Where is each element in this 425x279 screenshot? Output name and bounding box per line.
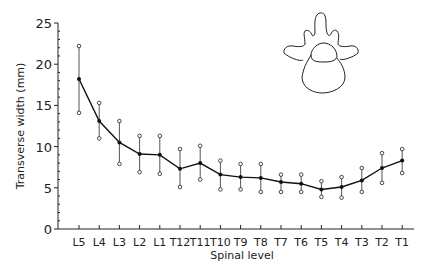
y-tick-label: 5	[44, 181, 52, 196]
upper-marker	[279, 173, 283, 177]
lower-marker	[380, 181, 384, 185]
y-tick-label: 0	[44, 222, 52, 237]
upper-marker	[340, 175, 344, 179]
mean-marker	[299, 182, 303, 186]
mean-marker	[360, 178, 364, 182]
x-tick-label: T4	[334, 236, 349, 249]
x-tick-label: T11	[189, 236, 211, 249]
x-tick-label: T8	[253, 236, 268, 249]
chart: 0510152025L5L4L3L2L1T12T11T10T9T8T7T6T5T…	[0, 0, 425, 279]
lower-marker	[138, 170, 142, 174]
x-tick-label: T6	[293, 236, 308, 249]
upper-marker	[198, 144, 202, 148]
x-tick-label: T3	[354, 236, 369, 249]
lower-marker	[239, 188, 243, 192]
upper-marker	[320, 179, 324, 183]
x-tick-label: L5	[72, 236, 85, 249]
mean-marker	[239, 175, 243, 179]
upper-marker	[219, 159, 223, 163]
lower-marker	[158, 172, 162, 176]
upper-marker	[380, 151, 384, 155]
lower-marker	[299, 190, 303, 194]
upper-marker	[158, 134, 162, 138]
mean-marker	[117, 140, 121, 144]
upper-marker	[400, 147, 404, 151]
mean-marker	[319, 187, 323, 191]
upper-marker	[299, 173, 303, 177]
y-tick-label: 20	[35, 57, 52, 72]
x-tick-label: T1	[394, 236, 409, 249]
upper-marker	[259, 162, 263, 166]
lower-marker	[340, 196, 344, 200]
lower-marker	[198, 178, 202, 182]
x-tick-label: T2	[374, 236, 389, 249]
lower-marker	[320, 195, 324, 199]
lower-marker	[97, 137, 101, 141]
x-tick-label: T9	[233, 236, 248, 249]
lower-marker	[77, 111, 81, 115]
mean-marker	[158, 153, 162, 157]
y-axis-label: Transverse width (mm)	[14, 63, 27, 191]
x-axis-label: Spinal level	[210, 249, 273, 262]
y-tick-label: 15	[35, 98, 52, 113]
upper-marker	[239, 162, 243, 166]
mean-marker	[380, 166, 384, 170]
upper-marker	[360, 166, 364, 170]
mean-marker	[77, 77, 81, 81]
upper-marker	[77, 44, 81, 48]
upper-marker	[97, 101, 101, 105]
y-tick-label: 10	[35, 140, 52, 155]
upper-marker	[118, 119, 122, 123]
mean-marker	[340, 185, 344, 189]
lower-marker	[259, 190, 263, 194]
vertebra-illustration	[284, 13, 358, 93]
lower-marker	[219, 188, 223, 192]
x-tick-label: L2	[133, 236, 146, 249]
mean-marker	[218, 173, 222, 177]
axes: 0510152025L5L4L3L2L1T12T11T10T9T8T7T6T5T…	[35, 16, 414, 249]
x-tick-label: T5	[314, 236, 329, 249]
mean-marker	[97, 119, 101, 123]
x-tick-label: L1	[153, 236, 166, 249]
mean-marker	[138, 152, 142, 156]
mean-marker	[279, 180, 283, 184]
mean-marker	[400, 159, 404, 163]
x-tick-label: T12	[169, 236, 191, 249]
lower-marker	[118, 162, 122, 166]
lower-marker	[178, 185, 182, 189]
lower-marker	[360, 190, 364, 194]
lower-marker	[279, 190, 283, 194]
mean-marker	[178, 167, 182, 171]
x-tick-label: T10	[209, 236, 231, 249]
x-tick-label: L4	[93, 236, 106, 249]
y-tick-label: 25	[35, 16, 52, 31]
x-tick-label: T7	[273, 236, 288, 249]
plot-area	[77, 44, 404, 199]
x-tick-label: L3	[113, 236, 126, 249]
mean-marker	[198, 161, 202, 165]
upper-marker	[138, 134, 142, 138]
upper-marker	[178, 147, 182, 151]
lower-marker	[400, 171, 404, 175]
mean-marker	[259, 176, 263, 180]
